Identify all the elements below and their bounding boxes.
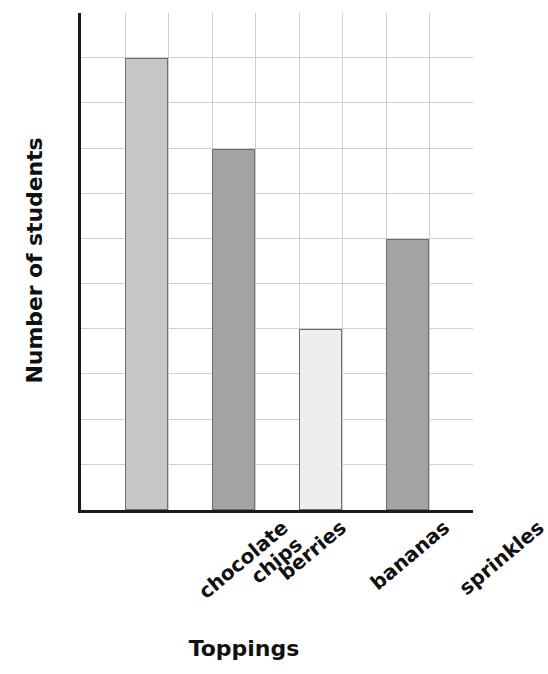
bar-chocolate-chips[interactable]	[125, 58, 169, 510]
bar-bananas[interactable]	[299, 329, 343, 510]
x-tick-label-bananas: bananas	[366, 516, 453, 594]
y-axis-label: Number of students	[0, 0, 70, 520]
bars-group	[81, 13, 473, 510]
plot-area	[78, 13, 473, 513]
bar-berries[interactable]	[212, 149, 256, 510]
x-tick-label-sprinkles: sprinkles	[455, 516, 548, 599]
bar-sprinkles[interactable]	[386, 239, 430, 510]
y-axis-label-text: Number of students	[23, 137, 48, 383]
x-axis-tick-labels: chocolatechipsberriesbananassprinkles	[78, 516, 478, 636]
x-axis-label: Toppings	[0, 636, 488, 661]
x-tick-label-line: sprinkles	[455, 516, 548, 599]
x-tick-label-line: bananas	[366, 516, 453, 594]
